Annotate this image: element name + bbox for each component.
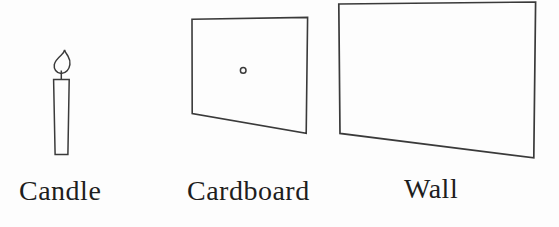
wall-label: Wall xyxy=(404,175,458,203)
candle-flame-icon xyxy=(54,50,70,74)
cardboard-panel xyxy=(192,17,308,133)
candle-with-flame-icon xyxy=(54,50,70,155)
wall-panel-icon xyxy=(339,2,536,158)
candle-label: Candle xyxy=(19,177,101,205)
candle-body xyxy=(54,80,70,155)
pinhole-camera-diagram: Candle Cardboard Wall xyxy=(0,0,559,227)
cardboard-with-pinhole-icon xyxy=(192,17,308,133)
cardboard-label: Cardboard xyxy=(187,177,310,205)
pinhole-icon xyxy=(240,68,246,74)
